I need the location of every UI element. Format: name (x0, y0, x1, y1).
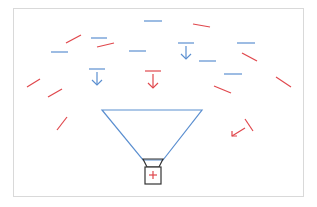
diagram-canvas (0, 0, 317, 207)
